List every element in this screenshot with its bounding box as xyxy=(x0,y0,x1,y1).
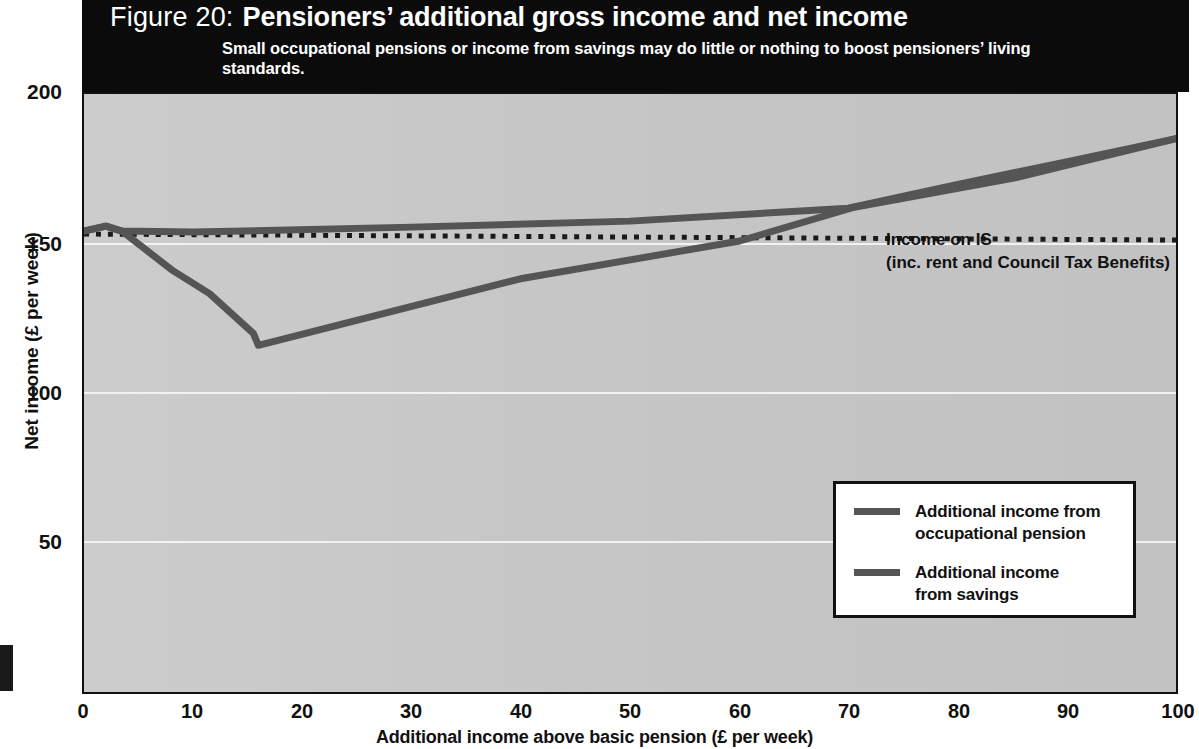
legend-swatch-savings-icon xyxy=(854,569,900,576)
series-occupational-pension xyxy=(84,139,1176,232)
x-tick-50: 50 xyxy=(600,700,660,723)
x-tick-30: 30 xyxy=(381,700,441,723)
income-on-is-annotation: Income on IS (inc. rent and Council Tax … xyxy=(886,228,1170,274)
x-tick-40: 40 xyxy=(491,700,551,723)
figure-label: Figure 20: xyxy=(110,2,234,32)
annotation-line-1: Income on IS xyxy=(886,228,1170,251)
title-row: Figure 20:Pensioners’ additional gross i… xyxy=(110,2,908,33)
x-tick-100: 100 xyxy=(1148,700,1199,723)
legend-label-occupational-pension: Additional income from occupational pens… xyxy=(915,501,1100,545)
x-tick-90: 90 xyxy=(1038,700,1098,723)
y-tick-50: 50 xyxy=(0,530,62,554)
edge-marker xyxy=(0,645,13,691)
legend-item-occupational-pension: Additional income from occupational pens… xyxy=(854,501,1100,545)
subtitle: Small occupational pensions or income fr… xyxy=(222,38,1082,78)
legend-label-savings: Additional income from savings xyxy=(915,562,1059,606)
legend-item-savings: Additional income from savings xyxy=(854,562,1059,606)
y-axis-title: Net income (£ per week) xyxy=(21,191,43,491)
annotation-line-2: (inc. rent and Council Tax Benefits) xyxy=(886,251,1170,274)
legend-box: Additional income from occupational pens… xyxy=(833,481,1136,618)
x-tick-80: 80 xyxy=(929,700,989,723)
x-tick-10: 10 xyxy=(162,700,222,723)
x-tick-0: 0 xyxy=(53,700,113,723)
page-title: Pensioners’ additional gross income and … xyxy=(243,2,908,32)
y-tick-200: 200 xyxy=(0,80,62,104)
x-axis-title: Additional income above basic pension (£… xyxy=(0,727,1189,748)
x-tick-60: 60 xyxy=(710,700,770,723)
legend-swatch-occupational-pension-icon xyxy=(854,508,900,515)
header-left-gutter xyxy=(0,0,82,92)
x-tick-20: 20 xyxy=(272,700,332,723)
x-tick-70: 70 xyxy=(819,700,879,723)
